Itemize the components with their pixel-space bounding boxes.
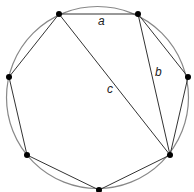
diagonal-c <box>59 14 170 155</box>
heptagon-edges <box>9 14 188 190</box>
vertex-dot <box>56 11 62 17</box>
label-a: a <box>98 14 105 28</box>
diagonals <box>59 14 170 155</box>
diagonal-b <box>138 14 170 155</box>
heptagon-edge <box>9 14 59 77</box>
heptagon-edge <box>170 77 188 155</box>
vertex-dot <box>96 187 102 192</box>
vertex-dot <box>135 11 141 17</box>
heptagon-edge <box>27 155 99 190</box>
vertex-dot <box>24 152 30 158</box>
label-b: b <box>155 65 162 79</box>
vertices <box>6 11 191 192</box>
vertex-dot <box>6 74 12 80</box>
heptagon-edge <box>9 77 27 155</box>
vertex-dot <box>185 74 191 80</box>
heptagon-diagram: a b c <box>0 0 194 192</box>
circumscribed-circle <box>7 7 189 189</box>
vertex-dot <box>167 152 173 158</box>
heptagon-edge <box>99 155 170 190</box>
label-c: c <box>107 82 113 96</box>
